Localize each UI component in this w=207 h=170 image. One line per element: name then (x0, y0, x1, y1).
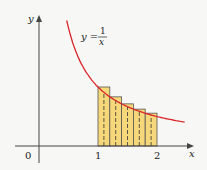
x-tick-2: 2 (154, 150, 160, 161)
x-tick-1: 1 (95, 150, 101, 161)
function-label-numerator: 1 (100, 26, 106, 36)
function-label-lhs: y = (80, 31, 98, 42)
y-axis-label: y (27, 13, 34, 24)
y-axis-arrow-icon (36, 15, 42, 22)
function-label-denominator: x (99, 37, 104, 47)
x-axis-label: x (189, 148, 195, 159)
riemann-sum-chart: y x 0 1 2 y = 1 x (0, 0, 207, 170)
x-tick-0: 0 (25, 150, 31, 161)
chart-svg: y x 0 1 2 y = 1 x (0, 0, 207, 170)
